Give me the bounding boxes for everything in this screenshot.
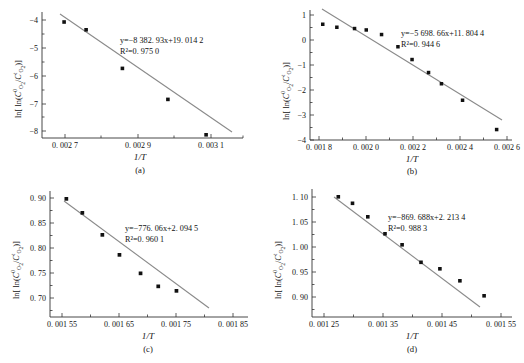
fit-equation-c-line1: y=−776. 06x+2. 094 5 (125, 224, 198, 233)
x-axis-label-d: 1/T (372, 331, 452, 341)
figure-four-panel-arrhenius-plots: −4 −5 −6 −7 −8 0. 002 7 0. 002 9 0. 003 … (0, 0, 524, 363)
panel-c: 0. 90 0. 85 0. 80 0. 75 0. 70 0. 001 55 … (0, 181, 262, 362)
xtick-c-3: 0. 001 85 (218, 320, 248, 329)
fit-r2-c: R²=0. 960 1 (125, 235, 164, 244)
x-axis-label-b: 1/T (372, 154, 452, 164)
data-points-d (337, 195, 486, 298)
xtick-d-0: 0. 001 25 (309, 320, 339, 329)
ytick-d-0: 1. 10 (276, 193, 308, 202)
panel-caption-a: (a) (100, 165, 180, 175)
ytick-c-0: 0. 90 (14, 194, 46, 203)
fit-equation-a: y=−8 382. 93x+19. 014 2 R²=0. 975 0 (120, 36, 203, 58)
y-axis-label-c: ln[ ln(C0O2/CtO2)] (10, 241, 25, 299)
fit-equation-a-line1: y=−8 382. 93x+19. 014 2 (120, 36, 203, 45)
ytick-c-1: 0. 85 (14, 219, 46, 228)
xtick-c-0: 0. 001 55 (47, 320, 77, 329)
panel-caption-b: (b) (372, 166, 452, 176)
fit-r2-d: R²=0. 988 3 (388, 224, 427, 233)
fit-equation-c: y=−776. 06x+2. 094 5 R²=0. 960 1 (125, 224, 198, 246)
x-axis-label-a: 1/T (100, 152, 180, 162)
panel-a: −4 −5 −6 −7 −8 0. 002 7 0. 002 9 0. 003 … (0, 0, 262, 181)
xtick-c-1: 0. 001 65 (104, 320, 134, 329)
xtick-b-3: 0. 002 4 (447, 143, 473, 152)
xtick-b-0: 0. 001 8 (306, 143, 332, 152)
fit-equation-b-line1: y=−5 698. 66x+11. 804 4 (401, 29, 484, 38)
fit-equation-b: y=−5 698. 66x+11. 804 4 R²=0. 944 6 (401, 29, 484, 51)
axes-d (312, 189, 512, 317)
fit-r2-b: R²=0. 944 6 (401, 40, 440, 49)
regression-line-a (60, 14, 232, 132)
ytick-b-1: 0 (286, 36, 306, 45)
fit-equation-d-line1: y=−869. 688x+2. 213 4 (388, 213, 465, 222)
xtick-c-2: 0. 001 75 (161, 320, 191, 329)
axes-c (50, 191, 248, 317)
ytick-b-0: 1 (286, 11, 306, 20)
fit-r2-a: R²=0. 975 0 (120, 47, 159, 56)
panel-caption-c: (c) (108, 344, 188, 354)
ytick-a-1: −5 (16, 44, 38, 53)
panel-b: 1 0 −1 −2 −3 −4 0. 001 8 0. 002 0 0. 002… (262, 0, 524, 181)
panel-caption-d: (d) (372, 344, 452, 354)
ytick-a-4: −8 (16, 127, 38, 136)
xtick-d-1: 0. 001 35 (368, 320, 398, 329)
xtick-d-3: 0. 001 55 (486, 320, 516, 329)
ytick-a-0: −4 (16, 16, 38, 25)
xtick-b-1: 0. 002 0 (353, 143, 379, 152)
x-axis-label-c: 1/T (108, 331, 188, 341)
xtick-b-4: 0. 002 6 (494, 143, 520, 152)
xtick-a-0: 0. 002 7 (52, 141, 78, 150)
ytick-d-1: 1. 05 (276, 218, 308, 227)
fit-equation-d: y=−869. 688x+2. 213 4 R²=0. 988 3 (388, 213, 465, 235)
xtick-a-2: 0. 003 1 (198, 141, 224, 150)
regression-line-b (322, 9, 502, 120)
y-axis-label-a: ln[ ln(C0O2/CtO2)] (12, 60, 27, 118)
panel-d: 1. 10 1. 05 1. 00 0. 95 0. 90 0. 001 25 … (262, 181, 524, 362)
y-axis-label-d: ln[ ln(C0O2/CtO2)] (272, 241, 287, 299)
y-axis-label-b: ln[ ln(C0O2/CtO2)] (280, 62, 295, 120)
regression-line-c (64, 201, 209, 308)
xtick-d-2: 0. 001 45 (427, 320, 457, 329)
tick-marks-c (50, 198, 233, 317)
xtick-b-2: 0. 002 2 (400, 143, 426, 152)
xtick-a-1: 0. 002 9 (125, 141, 151, 150)
ytick-b-5: −4 (286, 136, 306, 145)
